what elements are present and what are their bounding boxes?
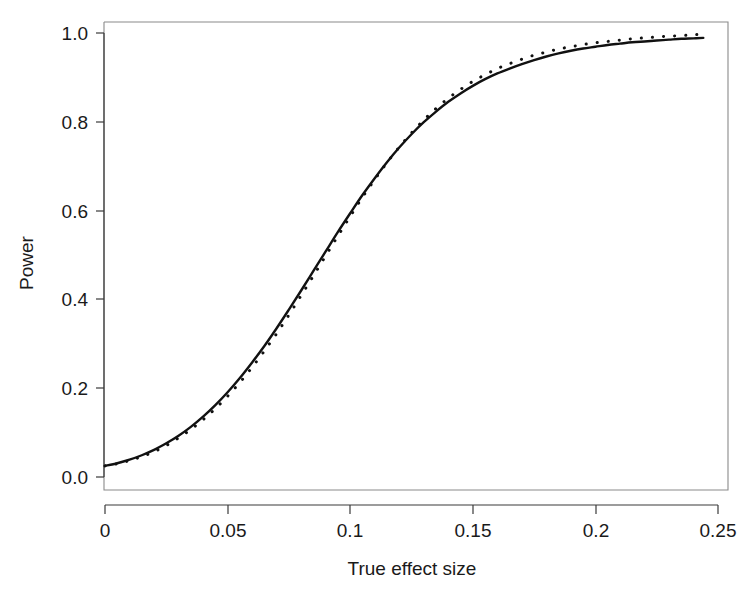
- figure-container: 0.0 0.2 0.4 0.6 0.8 1.0 Power 0 0: [0, 0, 755, 589]
- x-tick-label: 0.1: [337, 520, 363, 541]
- y-axis-title: Power: [16, 235, 37, 290]
- chart-background: [0, 0, 755, 589]
- y-tick-label: 0.2: [62, 378, 88, 399]
- x-axis-title: True effect size: [348, 558, 477, 579]
- x-tick-label: 0.15: [455, 520, 492, 541]
- y-tick-label: 1.0: [62, 23, 88, 44]
- y-tick-label: 0.4: [62, 289, 89, 310]
- x-tick-label: 0.25: [700, 520, 737, 541]
- y-tick-label: 0.0: [62, 467, 88, 488]
- x-tick-label: 0: [100, 520, 111, 541]
- power-curve-chart: 0.0 0.2 0.4 0.6 0.8 1.0 Power 0 0: [0, 0, 755, 589]
- y-tick-label: 0.6: [62, 201, 88, 222]
- x-tick-label: 0.05: [210, 520, 247, 541]
- y-tick-label: 0.8: [62, 112, 88, 133]
- x-tick-label: 0.2: [583, 520, 609, 541]
